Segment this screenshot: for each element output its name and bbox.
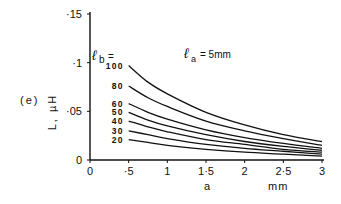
y-tick-label: ·15 bbox=[66, 8, 82, 20]
curves: 100806050403020 bbox=[106, 61, 322, 157]
x-tick-label: ·5 bbox=[124, 165, 134, 177]
x-tick-label: 1·5 bbox=[198, 165, 214, 177]
annotation-sub: a bbox=[191, 54, 196, 64]
panel-label: (e) bbox=[20, 94, 39, 106]
x-tick-label: 0 bbox=[87, 165, 93, 177]
labels: (e) L, µH a mm ℓ b = ℓ a = 5mm bbox=[20, 45, 288, 192]
curve-label: 80 bbox=[112, 81, 124, 91]
x-axis-label-unit: mm bbox=[268, 180, 288, 192]
ell-symbol: ℓ bbox=[91, 47, 97, 63]
x-tick-label: 3 bbox=[319, 165, 325, 177]
annotation: ℓ a = 5mm bbox=[183, 45, 231, 64]
curve-label: 20 bbox=[112, 135, 124, 145]
y-tick-label: 0 bbox=[76, 154, 82, 166]
x-tick-label: 2·5 bbox=[275, 165, 291, 177]
y-tick-label: ·05 bbox=[66, 105, 82, 117]
legend-title-sub: b bbox=[99, 54, 105, 65]
chart: 0·05·1·150·511·522·53 100806050403020 (e… bbox=[0, 0, 341, 204]
x-axis-label-var: a bbox=[204, 180, 211, 192]
y-tick-label: ·1 bbox=[72, 57, 82, 69]
curve-label: 100 bbox=[106, 61, 124, 71]
x-tick-label: 1 bbox=[164, 165, 170, 177]
curve-label: 40 bbox=[112, 116, 124, 126]
x-tick-label: 2 bbox=[242, 165, 248, 177]
annotation-value: = 5mm bbox=[200, 49, 231, 60]
ell-symbol: ℓ bbox=[183, 45, 189, 61]
legend-title-eq: = bbox=[108, 51, 114, 62]
y-axis-label: L, µH bbox=[46, 94, 58, 131]
